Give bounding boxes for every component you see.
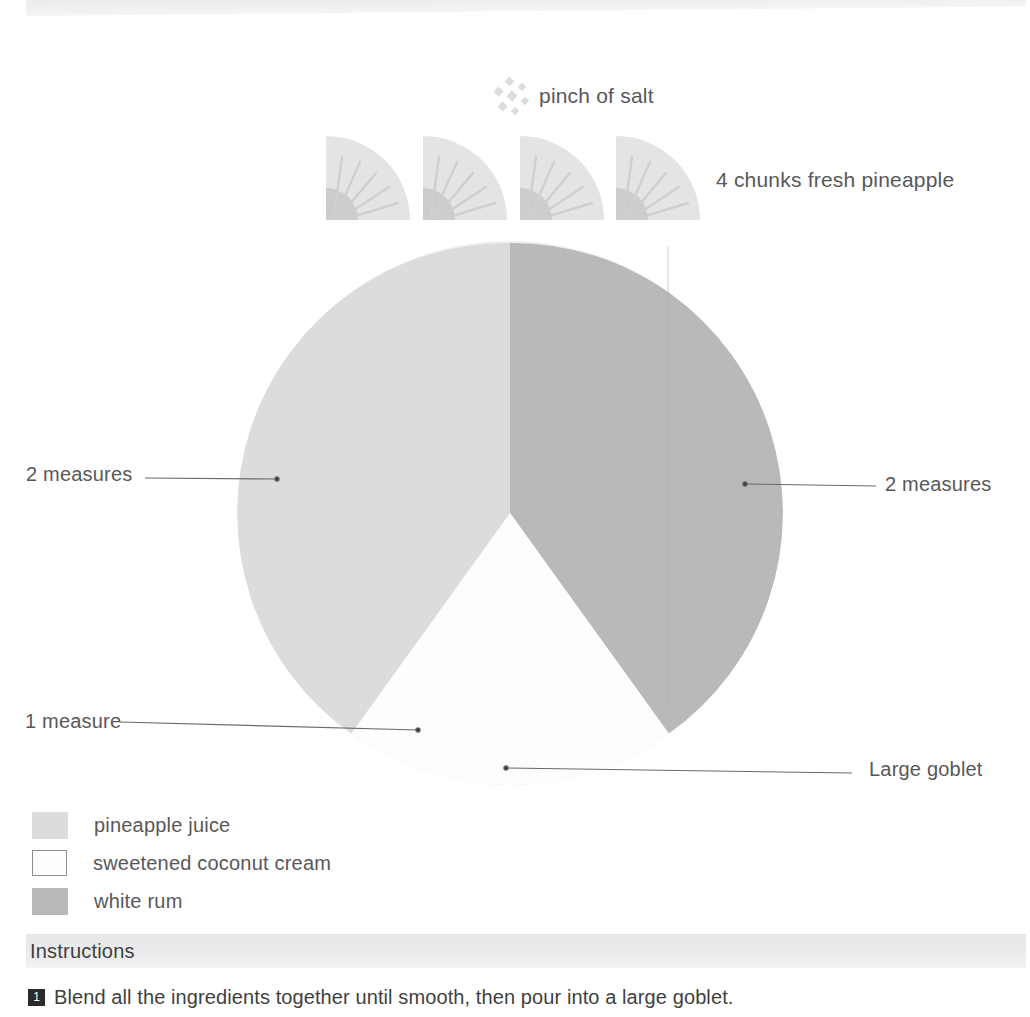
legend-item: pineapple juice xyxy=(32,806,331,844)
callout-right-bottom: Large goblet xyxy=(869,758,983,781)
instructions-band xyxy=(26,934,1026,968)
legend-label: sweetened coconut cream xyxy=(93,852,331,875)
callout-right-top: 2 measures xyxy=(885,473,992,496)
instructions-title: Instructions xyxy=(30,940,135,963)
instruction-step: 1 Blend all the ingredients together unt… xyxy=(28,986,733,1009)
step-text: Blend all the ingredients together until… xyxy=(54,986,733,1009)
pineapple-chunk-icon xyxy=(616,135,700,220)
salt-crystals-icon xyxy=(492,78,536,116)
page-top-band xyxy=(26,0,1026,16)
legend-label: pineapple juice xyxy=(94,814,230,837)
legend-label: white rum xyxy=(94,890,183,913)
pineapple-chunk-icon xyxy=(326,135,410,220)
pineapple-chunk-icon xyxy=(423,135,507,220)
ingredient-label-salt: pinch of salt xyxy=(539,84,654,108)
step-number-badge: 1 xyxy=(28,989,45,1006)
chart-legend: pineapple juice sweetened coconut cream … xyxy=(32,806,331,920)
callout-left-top: 2 measures xyxy=(26,463,133,486)
pineapple-chunk-icon-group xyxy=(326,135,700,220)
legend-item: sweetened coconut cream xyxy=(32,844,331,882)
legend-swatch-white-rum xyxy=(32,888,68,915)
legend-swatch-coconut-cream xyxy=(32,850,67,876)
ingredient-label-pineapple: 4 chunks fresh pineapple xyxy=(716,168,954,192)
ingredient-pie-chart xyxy=(234,237,786,789)
recipe-page: pinch of salt xyxy=(0,0,1030,1017)
pineapple-chunk-icon xyxy=(520,135,604,220)
legend-swatch-pineapple-juice xyxy=(32,812,68,839)
callout-left-bottom: 1 measure xyxy=(25,710,121,733)
legend-item: white rum xyxy=(32,882,331,920)
